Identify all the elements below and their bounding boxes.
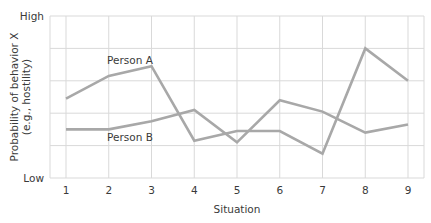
x-tick-label: 6: [276, 184, 283, 196]
x-tick-label: 7: [319, 184, 326, 196]
annotation-person-b: Person B: [107, 131, 153, 143]
line-chart: High Low Probability of behavior X (e.g.…: [0, 0, 431, 223]
x-tick-label: 2: [105, 184, 112, 196]
y-tick-high: High: [20, 10, 44, 22]
x-axis-label: Situation: [214, 203, 261, 215]
x-tick-label: 3: [148, 184, 155, 196]
y-axis-label: Probability of behavior X: [8, 33, 20, 162]
y-axis-sublabel: (e.g., hostility): [20, 59, 32, 135]
chart-labels: High Low Probability of behavior X (e.g.…: [8, 10, 260, 215]
x-tick-label: 4: [191, 184, 198, 196]
y-tick-low: Low: [23, 172, 44, 184]
x-tick-label: 9: [405, 184, 412, 196]
annotation-person-a: Person A: [107, 54, 154, 66]
grid-lines: [50, 16, 424, 178]
x-tick-label: 5: [234, 184, 241, 196]
x-tick-labels: 123456789: [63, 184, 412, 196]
x-tick-label: 1: [63, 184, 70, 196]
x-tick-label: 8: [362, 184, 369, 196]
chart-canvas: High Low Probability of behavior X (e.g.…: [0, 0, 431, 223]
